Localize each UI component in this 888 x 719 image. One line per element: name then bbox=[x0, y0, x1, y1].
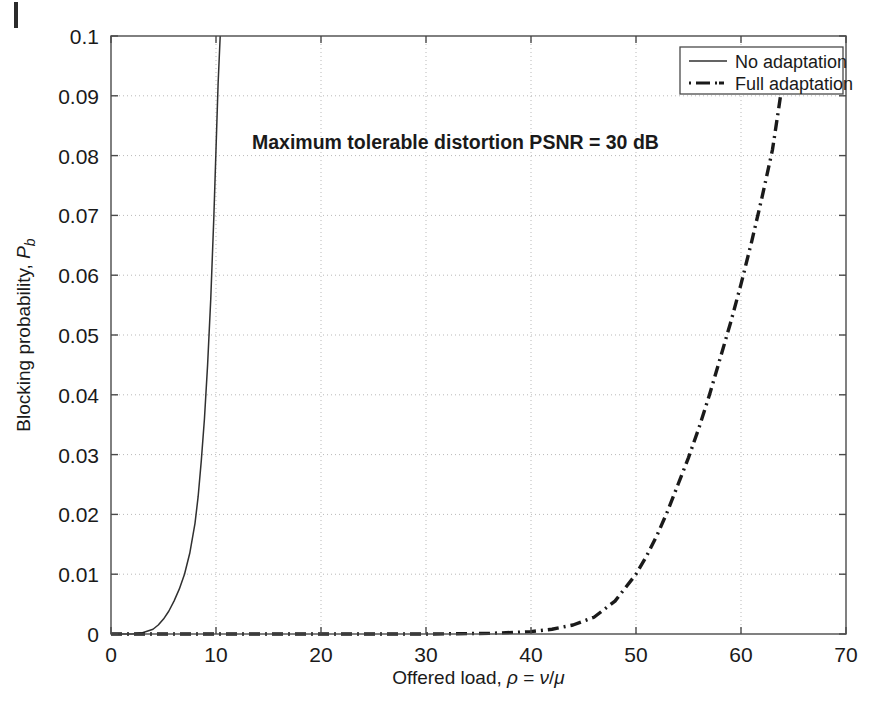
y-axis-title: Blocking probability, Pb bbox=[13, 238, 38, 432]
grid-layer bbox=[111, 36, 846, 634]
x-tick-label: 60 bbox=[729, 643, 752, 666]
legend-label-1: No adaptation bbox=[735, 52, 847, 72]
y-tick-label: 0.1 bbox=[70, 25, 99, 48]
y-tick-label: 0.03 bbox=[58, 444, 99, 467]
chart-legend: No adaptationFull adaptation bbox=[680, 47, 853, 94]
x-tick-label: 40 bbox=[519, 643, 542, 666]
x-tick-label: 10 bbox=[204, 643, 227, 666]
y-tick-label: 0 bbox=[87, 623, 99, 646]
y-tick-label: 0.09 bbox=[58, 85, 99, 108]
x-axis-title: Offered load, ρ = ν/μ bbox=[392, 667, 565, 688]
x-tick-label: 20 bbox=[309, 643, 332, 666]
x-tick-label: 30 bbox=[414, 643, 437, 666]
figure-container: 01020304050607000.010.020.030.040.050.06… bbox=[0, 0, 888, 719]
y-tick-label: 0.01 bbox=[58, 563, 99, 586]
tick-labels-layer: 01020304050607000.010.020.030.040.050.06… bbox=[58, 25, 858, 666]
x-tick-label: 70 bbox=[834, 643, 857, 666]
chart-annotation: Maximum tolerable distortion PSNR = 30 d… bbox=[252, 131, 659, 153]
series-line-2 bbox=[111, 72, 784, 634]
y-tick-label: 0.04 bbox=[58, 384, 99, 407]
y-tick-label: 0.02 bbox=[58, 503, 99, 526]
legend-label-2: Full adaptation bbox=[735, 74, 853, 94]
x-tick-label: 50 bbox=[624, 643, 647, 666]
y-tick-label: 0.08 bbox=[58, 145, 99, 168]
y-tick-label: 0.06 bbox=[58, 264, 99, 287]
y-tick-label: 0.05 bbox=[58, 324, 99, 347]
y-tick-label: 0.07 bbox=[58, 204, 99, 227]
page-edge-mark bbox=[14, 2, 18, 28]
annotation-text: Maximum tolerable distortion PSNR = 30 d… bbox=[252, 131, 659, 153]
x-tick-label: 0 bbox=[105, 643, 117, 666]
blocking-probability-chart: 01020304050607000.010.020.030.040.050.06… bbox=[0, 0, 888, 719]
